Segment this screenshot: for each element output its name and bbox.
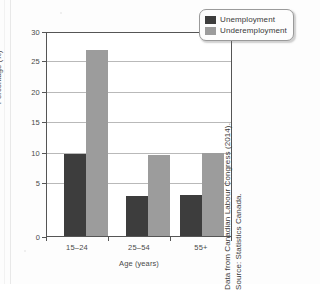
y-tick-label-10: 10 — [20, 149, 40, 158]
x-axis-title: Age (years) — [46, 259, 232, 268]
y-tick-label-20: 20 — [20, 88, 40, 97]
y-tick-label-15: 15 — [20, 118, 40, 127]
page-edge-line-outer — [4, 0, 5, 284]
x-tick-label-15-24: 15–24 — [46, 243, 108, 252]
y-tick-label-25: 25 — [20, 57, 40, 66]
legend-swatch-icon-underemployment — [205, 27, 216, 35]
legend-label-unemployment: Unemployment — [220, 15, 275, 24]
x-tick-mark-1 — [46, 237, 47, 241]
bar-unemployment-55plus — [180, 195, 202, 236]
legend-label-underemployment: Underemployment — [220, 26, 287, 35]
x-tick-label-25-54: 25–54 — [108, 243, 170, 252]
bar-underemployment-55plus — [202, 153, 224, 236]
bar-unemployment-15-24 — [64, 154, 86, 236]
gridline-25 — [47, 61, 231, 62]
gridline-15 — [47, 122, 231, 123]
y-axis-title: Percentage (%) — [0, 50, 3, 104]
page-edge-line-inner — [10, 0, 11, 284]
bar-underemployment-15-24 — [86, 50, 108, 236]
y-tick-label-0: 0 — [20, 233, 40, 242]
x-tick-mark-3 — [170, 237, 171, 241]
source-caption: Data from Canadian Labour Congress (2014… — [222, 123, 244, 290]
y-tick-label-5: 5 — [20, 179, 40, 188]
legend-item-underemployment: Underemployment — [205, 25, 287, 36]
bar-unemployment-25-54 — [126, 196, 148, 236]
scan-speckle — [24, 250, 26, 252]
chart-legend: Unemployment Underemployment — [199, 9, 294, 41]
source-caption-line-2: Source: Statistics Canada. — [233, 123, 244, 290]
source-caption-line-1: Data from Canadian Labour Congress (2014… — [222, 123, 233, 290]
plot-area — [46, 32, 232, 237]
bar-underemployment-25-54 — [148, 155, 170, 236]
legend-item-unemployment: Unemployment — [205, 14, 287, 25]
y-tick-label-30: 30 — [20, 28, 40, 37]
x-tick-mark-2 — [108, 237, 109, 241]
gridline-20 — [47, 92, 231, 93]
scan-speckle — [60, 12, 62, 14]
legend-swatch-icon-unemployment — [205, 16, 216, 24]
